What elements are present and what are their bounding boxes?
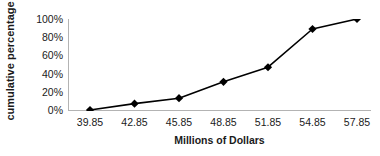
x-axis-tick-label: 48.85 xyxy=(210,115,236,129)
data-markers xyxy=(86,19,361,111)
y-axis-tick-label: 60% xyxy=(42,49,63,61)
y-axis-tick-label: 40% xyxy=(42,68,63,80)
x-axis-tick-label: 51.85 xyxy=(255,115,281,129)
plot-svg xyxy=(68,19,371,111)
axis-lines xyxy=(68,19,371,111)
y-axis-title-label: cumulative percentage xyxy=(4,1,16,120)
x-axis-tick-labels: 39.8542.8545.8548.8551.8554.8557.85 xyxy=(68,115,371,131)
y-axis-tick-label: 0% xyxy=(48,104,63,116)
plot-area xyxy=(68,19,371,111)
y-axis-tick-label: 100% xyxy=(36,13,63,25)
data-point-marker xyxy=(130,100,138,108)
y-axis-title: cumulative percentage xyxy=(0,0,20,122)
data-point-marker xyxy=(86,106,94,111)
x-axis-tick-label: 57.85 xyxy=(344,115,370,129)
y-axis-tick-label: 20% xyxy=(42,86,63,98)
x-axis-title: Millions of Dollars xyxy=(68,134,371,146)
data-point-marker xyxy=(353,19,361,23)
x-axis-tick-label: 42.85 xyxy=(121,115,147,129)
data-point-marker xyxy=(219,78,227,86)
cumulative-percentage-chart: cumulative percentage 0%20%40%60%80%100%… xyxy=(0,0,380,156)
y-axis-tick-labels: 0%20%40%60%80%100% xyxy=(22,13,66,111)
data-line xyxy=(90,19,357,110)
x-axis-tick-label: 45.85 xyxy=(166,115,192,129)
x-axis-tick-label: 39.85 xyxy=(77,115,103,129)
y-axis-tick-label: 80% xyxy=(42,31,63,43)
x-axis-tick-label: 54.85 xyxy=(299,115,325,129)
data-point-marker xyxy=(175,94,183,102)
